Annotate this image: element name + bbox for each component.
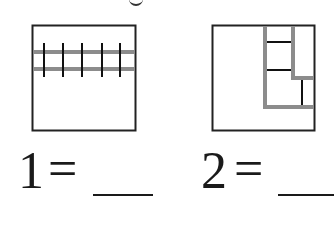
figure-2-strip-vertical [263,26,267,108]
figure-2-label: 2 [201,145,227,197]
figure-1-outline [33,26,136,131]
figure-2-strip-bottom [263,105,314,109]
figure-1-answer-blank[interactable] [93,194,153,196]
figure-1 [33,26,136,131]
figure-1-ticks [44,43,120,77]
figure-1-label: 1 [18,145,44,197]
figure-2-inner-strip-horizontal [291,76,314,80]
figure-2-partitions [267,42,302,105]
figure-2-equals: = [234,143,263,195]
figure-2-inner-strip-vertical [291,26,295,79]
figure-2-answer-blank[interactable] [278,194,334,196]
figure-2 [213,26,315,131]
figure-1-equals: = [48,143,77,195]
